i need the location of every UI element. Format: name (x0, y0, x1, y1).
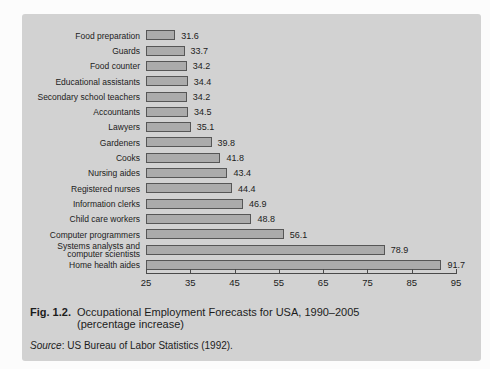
chart-row: Information clerks46.9 (28, 196, 456, 211)
bar-track: 34.4 (146, 74, 456, 89)
category-label: Home health aides (28, 261, 146, 269)
bar-track: 31.6 (146, 28, 456, 43)
axis-tick (456, 269, 457, 274)
bar-track: 34.2 (146, 89, 456, 104)
category-label: Gardeners (28, 139, 146, 147)
bar-track: 33.7 (146, 43, 456, 58)
bar-chart: Food preparation31.6Guards33.7Food count… (22, 14, 481, 273)
bar-track: 56.1 (146, 227, 456, 242)
category-label: Secondary school teachers (28, 93, 146, 101)
axis-tick (190, 269, 191, 274)
chart-row: Food preparation31.6 (28, 28, 456, 43)
axis-tick-label: 45 (229, 277, 240, 288)
bar (146, 30, 175, 40)
axis-tick (367, 269, 368, 274)
bar-track: 44.4 (146, 181, 456, 196)
category-label: Accountants (28, 108, 146, 116)
bar-track: 34.2 (146, 59, 456, 74)
bar (146, 137, 212, 147)
value-label: 78.9 (391, 245, 409, 255)
value-label: 41.8 (226, 153, 244, 163)
bar (146, 245, 385, 255)
chart-row: Registered nurses44.4 (28, 181, 456, 196)
bar (146, 122, 191, 132)
chart-row: Child care workers48.8 (28, 212, 456, 227)
bar (146, 168, 227, 178)
bar-track: 48.8 (146, 212, 456, 227)
chart-row: Accountants34.5 (28, 104, 456, 119)
category-label: Educational assistants (28, 78, 146, 86)
chart-rows: Food preparation31.6Guards33.7Food count… (28, 28, 456, 273)
axis-spacer (28, 273, 146, 291)
value-label: 43.4 (233, 168, 251, 178)
chart-row: Nursing aides43.4 (28, 166, 456, 181)
chart-row: Home health aides91.7 (28, 257, 456, 272)
category-label: Systems analysts and computer scientists (28, 242, 146, 258)
value-label: 46.9 (249, 199, 267, 209)
bar-track: 91.7 (146, 257, 456, 272)
bar (146, 199, 243, 209)
value-label: 34.2 (193, 61, 211, 71)
x-axis: 2535455565758595 (22, 273, 481, 291)
bar (146, 92, 187, 102)
bar (146, 61, 187, 71)
figure-panel: Food preparation31.6Guards33.7Food count… (22, 14, 481, 361)
value-label: 48.8 (257, 214, 275, 224)
chart-row: Educational assistants34.4 (28, 74, 456, 89)
source-text: : US Bureau of Labor Statistics (1992). (62, 340, 233, 351)
axis-tick-label: 95 (451, 277, 462, 288)
bar (146, 76, 188, 86)
axis-tick-label: 65 (318, 277, 329, 288)
category-label: Cooks (28, 154, 146, 162)
x-axis-track: 2535455565758595 (146, 273, 456, 291)
category-label: Registered nurses (28, 185, 146, 193)
category-label: Food counter (28, 62, 146, 70)
value-label: 34.2 (193, 92, 211, 102)
axis-tick-label: 85 (406, 277, 417, 288)
chart-row: Secondary school teachers34.2 (28, 89, 456, 104)
value-label: 56.1 (290, 230, 308, 240)
category-label: Computer programmers (28, 231, 146, 239)
chart-row: Guards33.7 (28, 43, 456, 58)
value-label: 44.4 (238, 184, 256, 194)
figure-title-block: Occupational Employment Forecasts for US… (77, 306, 359, 331)
axis-tick (235, 269, 236, 274)
chart-row: Gardeners39.8 (28, 135, 456, 150)
bar-track: 46.9 (146, 196, 456, 211)
value-label: 34.5 (194, 107, 212, 117)
value-label: 35.1 (197, 122, 215, 132)
figure-label: Fig. 1.2. (30, 306, 71, 331)
category-label: Child care workers (28, 215, 146, 223)
bar-track: 41.8 (146, 150, 456, 165)
axis-tick-label: 75 (362, 277, 373, 288)
source-word: Source (30, 340, 62, 351)
chart-row: Computer programmers56.1 (28, 227, 456, 242)
bar (146, 183, 232, 193)
bar-track: 78.9 (146, 242, 456, 257)
axis-tick-label: 35 (185, 277, 196, 288)
axis-tick (279, 269, 280, 274)
bar-track: 34.5 (146, 104, 456, 119)
bar (146, 107, 188, 117)
axis-tick-label: 55 (274, 277, 285, 288)
bar (146, 214, 251, 224)
chart-row: Cooks41.8 (28, 150, 456, 165)
category-label: Lawyers (28, 123, 146, 131)
caption: Fig. 1.2. Occupational Employment Foreca… (30, 306, 469, 331)
bar (146, 46, 185, 56)
chart-row: Systems analysts and computer scientists… (28, 242, 456, 257)
chart-row: Food counter34.2 (28, 59, 456, 74)
bar-track: 39.8 (146, 135, 456, 150)
bar (146, 153, 220, 163)
value-label: 39.8 (218, 138, 236, 148)
value-label: 31.6 (181, 31, 199, 41)
figure-subtitle: (percentage increase) (77, 318, 359, 331)
value-label: 34.4 (194, 77, 212, 87)
source-note: Source: US Bureau of Labor Statistics (1… (30, 340, 469, 351)
bar-track: 43.4 (146, 166, 456, 181)
axis-tick-label: 25 (141, 277, 152, 288)
figure-title: Occupational Employment Forecasts for US… (77, 306, 359, 319)
category-label: Nursing aides (28, 169, 146, 177)
bar (146, 229, 284, 239)
bar-track: 35.1 (146, 120, 456, 135)
